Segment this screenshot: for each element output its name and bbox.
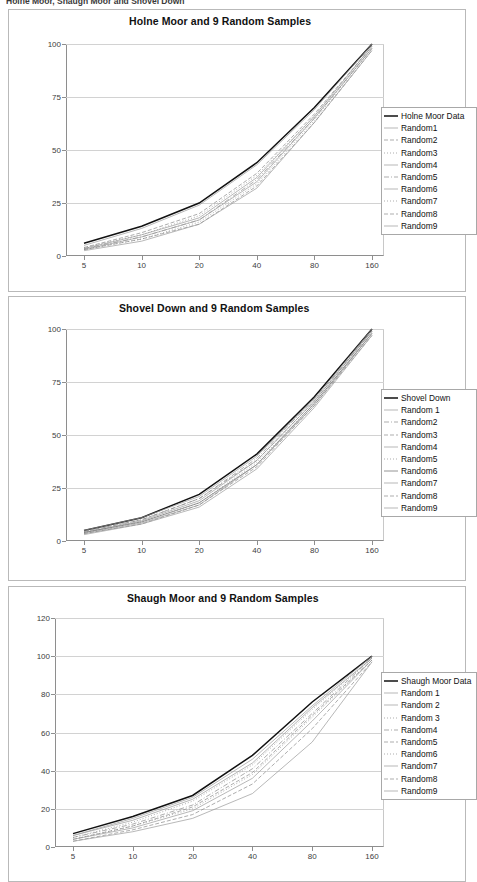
legend-item-label: Shovel Down [401, 392, 450, 404]
legend-item-label: Random6 [401, 465, 437, 477]
legend-item[interactable]: Random3 [384, 429, 473, 441]
legend-item[interactable]: Random3 [384, 147, 473, 159]
legend-item-label: Random8 [401, 773, 437, 785]
y-axis-label: 120 [37, 614, 50, 623]
data-series-line [73, 658, 372, 837]
chart-legend[interactable]: Shaugh Moor DataRandom 1Random 2Random 3… [381, 672, 477, 800]
x-axis-tick [372, 847, 373, 851]
x-axis-label: 40 [248, 852, 257, 861]
x-axis-tick [73, 847, 74, 851]
legend-line-swatch-icon [384, 786, 398, 796]
x-axis-label: 160 [365, 852, 378, 861]
legend-line-swatch-icon [384, 135, 398, 145]
chart-panel-holne-moor: Holne Moor and 9 Random Samples 02550751… [8, 9, 466, 292]
y-axis-label: 60 [41, 728, 50, 737]
legend-line-swatch-icon [384, 430, 398, 440]
x-axis-tick [257, 541, 258, 545]
x-axis-tick [372, 256, 373, 260]
x-axis-label: 40 [252, 261, 261, 270]
x-axis-label: 20 [195, 546, 204, 555]
legend-item-label: Random7 [401, 477, 437, 489]
legend-item[interactable]: Random2 [384, 134, 473, 146]
legend-item[interactable]: Holne Moor Data [384, 110, 473, 122]
y-axis-label: 75 [52, 93, 61, 102]
legend-item-label: Random8 [401, 208, 437, 220]
legend-line-swatch-icon [384, 393, 398, 403]
legend-item[interactable]: Random8 [384, 490, 473, 502]
data-series-line [84, 46, 372, 247]
chart-title: Shaugh Moor and 9 Random Samples [9, 592, 465, 604]
x-axis-label: 20 [188, 852, 197, 861]
y-axis-label: 50 [52, 431, 61, 440]
x-axis-tick [372, 541, 373, 545]
legend-item[interactable]: Random8 [384, 773, 473, 785]
legend-line-swatch-icon [384, 491, 398, 501]
legend-item[interactable]: Random6 [384, 183, 473, 195]
legend-item-label: Random 3 [401, 712, 440, 724]
data-series-line [84, 46, 372, 248]
x-axis-tick [133, 847, 134, 851]
legend-item[interactable]: Random4 [384, 441, 473, 453]
chart-legend[interactable]: Holne Moor DataRandom1Random2Random3Rand… [381, 107, 477, 235]
legend-item[interactable]: Random 3 [384, 712, 473, 724]
legend-item[interactable]: Random6 [384, 465, 473, 477]
x-axis-tick [314, 541, 315, 545]
legend-line-swatch-icon [384, 761, 398, 771]
x-axis-label: 80 [310, 261, 319, 270]
series-layer [66, 44, 384, 256]
series-layer [66, 329, 384, 541]
legend-item[interactable]: Random4 [384, 159, 473, 171]
legend-line-swatch-icon [384, 725, 398, 735]
legend-item[interactable]: Random5 [384, 736, 473, 748]
legend-item-label: Random5 [401, 736, 437, 748]
legend-item-label: Random9 [401, 220, 437, 232]
legend-item[interactable]: Random7 [384, 195, 473, 207]
x-axis-label: 5 [82, 546, 86, 555]
legend-item[interactable]: Random 2 [384, 699, 473, 711]
y-axis-label: 20 [41, 804, 50, 813]
y-axis-tick [62, 256, 66, 257]
y-axis-label: 100 [48, 325, 61, 334]
legend-line-swatch-icon [384, 713, 398, 723]
data-series-line [73, 658, 372, 837]
legend-item-label: Random2 [401, 416, 437, 428]
legend-item[interactable]: Random9 [384, 785, 473, 797]
y-axis-label: 40 [41, 766, 50, 775]
legend-line-swatch-icon [384, 111, 398, 121]
legend-line-swatch-icon [384, 221, 398, 231]
legend-item[interactable]: Random9 [384, 220, 473, 232]
y-axis-label: 0 [57, 537, 61, 546]
legend-item[interactable]: Random4 [384, 724, 473, 736]
legend-line-swatch-icon [384, 405, 398, 415]
legend-line-swatch-icon [384, 774, 398, 784]
series-layer [55, 618, 384, 847]
legend-item[interactable]: Random2 [384, 416, 473, 428]
data-series-line [84, 44, 372, 245]
legend-line-swatch-icon [384, 196, 398, 206]
chart-legend[interactable]: Shovel DownRandom 1Random2Random3Random4… [381, 389, 477, 517]
legend-item[interactable]: Random7 [384, 477, 473, 489]
legend-item[interactable]: Random9 [384, 502, 473, 514]
legend-item[interactable]: Random 1 [384, 687, 473, 699]
y-axis-label: 0 [46, 843, 50, 852]
y-axis-label: 75 [52, 378, 61, 387]
y-axis-tick [62, 541, 66, 542]
legend-item-label: Random4 [401, 724, 437, 736]
legend-item[interactable]: Random8 [384, 208, 473, 220]
legend-item[interactable]: Random6 [384, 748, 473, 760]
legend-item[interactable]: Random7 [384, 760, 473, 772]
legend-item[interactable]: Random5 [384, 453, 473, 465]
data-series-line [84, 335, 372, 533]
legend-item-label: Random6 [401, 183, 437, 195]
legend-item[interactable]: Shovel Down [384, 392, 473, 404]
legend-item[interactable]: Random1 [384, 122, 473, 134]
plot-area: 020406080100120510204080160 [55, 618, 384, 847]
legend-item[interactable]: Shaugh Moor Data [384, 675, 473, 687]
legend-item[interactable]: Random 1 [384, 404, 473, 416]
data-series-line [84, 329, 372, 530]
legend-line-swatch-icon [384, 503, 398, 513]
data-series-line [84, 48, 372, 249]
x-axis-label: 160 [365, 546, 378, 555]
legend-item[interactable]: Random5 [384, 171, 473, 183]
